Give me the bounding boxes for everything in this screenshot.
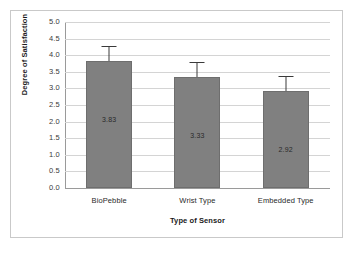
bar-value-label: 3.33 bbox=[190, 132, 204, 139]
bar-group: 3.83 bbox=[65, 22, 153, 188]
y-tick-label: 0.5 bbox=[18, 168, 60, 176]
error-bar-cap-upper bbox=[190, 62, 205, 63]
y-tick-label: 5.0 bbox=[18, 18, 60, 26]
bar-value-label: 2.92 bbox=[279, 146, 293, 153]
y-tick-label: 3.5 bbox=[18, 68, 60, 76]
y-tick-label: 1.5 bbox=[18, 134, 60, 142]
chart-figure: Degree of Satisfaction 5.0 4.5 4.0 3.5 3… bbox=[0, 0, 355, 253]
y-tick-label: 0.0 bbox=[18, 184, 60, 192]
y-tick-label: 4.0 bbox=[18, 51, 60, 59]
x-tick-label-biopebble: BioPebble bbox=[65, 196, 153, 205]
y-tick-label: 4.5 bbox=[18, 35, 60, 43]
x-tick-label-embedded-type: Embedded Type bbox=[242, 196, 330, 205]
bar-value-label: 3.83 bbox=[102, 116, 116, 123]
bar-biopebble[interactable] bbox=[86, 61, 132, 188]
plot-area: 3.83 3.33 2.92 bbox=[65, 22, 330, 188]
bar-group: 2.92 bbox=[242, 22, 330, 188]
x-axis-title: Type of Sensor bbox=[65, 216, 330, 225]
x-tick-label-wrist-type: Wrist Type bbox=[153, 196, 241, 205]
bar-group: 3.33 bbox=[153, 22, 241, 188]
y-tick-label: 2.0 bbox=[18, 118, 60, 126]
error-bar-cap-upper bbox=[278, 76, 293, 77]
error-bar-cap-upper bbox=[102, 46, 117, 47]
bar-embedded-type[interactable] bbox=[263, 91, 309, 188]
y-tick-label: 3.0 bbox=[18, 85, 60, 93]
y-tick-label: 1.0 bbox=[18, 151, 60, 159]
y-axis-tick-labels: 5.0 4.5 4.0 3.5 3.0 2.5 2.0 1.5 1.0 0.5 … bbox=[14, 22, 60, 188]
y-tick-label: 2.5 bbox=[18, 101, 60, 109]
x-axis-line bbox=[65, 188, 330, 189]
